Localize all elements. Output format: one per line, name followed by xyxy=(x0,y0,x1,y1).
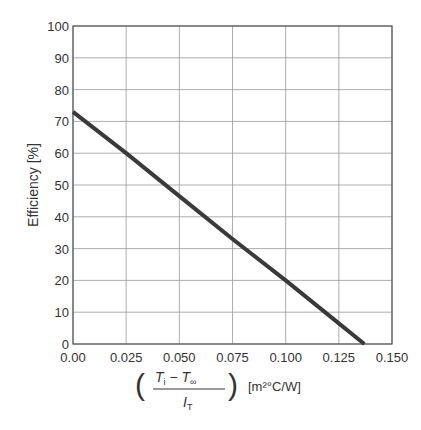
y-tick-label: 40 xyxy=(55,210,69,225)
y-tick-label: 50 xyxy=(55,178,69,193)
y-tick-label: 10 xyxy=(55,305,69,320)
x-tick-label: 0.075 xyxy=(216,350,249,365)
x-tick-label: 0.150 xyxy=(376,350,409,365)
x-tick-label: 0.00 xyxy=(60,350,85,365)
x-tick-label: 0.025 xyxy=(110,350,143,365)
x-axis-unit: [m²°C/W] xyxy=(248,379,301,394)
x-axis-label: ( Ti − T∞ IT ) [m²°C/W] xyxy=(135,368,301,412)
chart: 0102030405060708090100 0.000.0250.0500.0… xyxy=(0,0,421,430)
grid-lines xyxy=(73,26,392,344)
svg-text:IT: IT xyxy=(183,394,193,412)
right-paren: ) xyxy=(228,368,238,401)
left-paren: ( xyxy=(135,368,145,401)
y-tick-label: 70 xyxy=(55,114,69,129)
y-tick-label: 80 xyxy=(55,83,69,98)
y-tick-label: 60 xyxy=(55,146,69,161)
x-tick-label: 0.100 xyxy=(269,350,302,365)
y-tick-label: 100 xyxy=(47,19,69,34)
y-tick-label: 90 xyxy=(55,51,69,66)
x-tick-label: 0.125 xyxy=(323,350,356,365)
x-axis-ticks: 0.000.0250.0500.0750.1000.1250.150 xyxy=(60,350,408,365)
y-axis-label: Efficiency [%] xyxy=(25,143,41,227)
y-tick-label: 20 xyxy=(55,273,69,288)
efficiency-line xyxy=(73,112,364,344)
x-tick-label: 0.050 xyxy=(163,350,196,365)
y-tick-label: 30 xyxy=(55,242,69,257)
svg-text:Ti − T∞: Ti − T∞ xyxy=(155,369,197,387)
y-axis-ticks: 0102030405060708090100 xyxy=(47,19,69,352)
